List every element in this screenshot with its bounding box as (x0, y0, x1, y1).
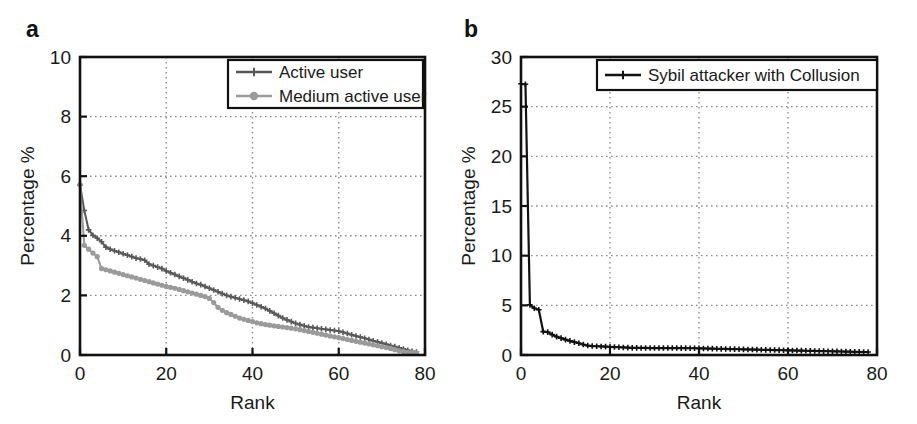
y-tick-label: 0 (501, 345, 512, 366)
panel-b-plot: 051015202530020406080RankPercentage %Syb… (457, 0, 917, 424)
panel-a-plot: 0246810020406080RankPercentage %Active u… (0, 0, 460, 424)
legend-label-0: Active user (279, 63, 363, 82)
data-marker (523, 82, 529, 88)
data-marker (375, 343, 380, 348)
y-tick-label: 5 (501, 295, 512, 316)
data-marker (397, 348, 402, 353)
data-marker (315, 331, 320, 336)
data-marker (95, 254, 100, 259)
data-marker (371, 342, 376, 347)
data-marker (349, 338, 354, 343)
x-axis-title: Rank (677, 392, 722, 413)
series-line-active-user (80, 185, 416, 352)
data-marker (366, 341, 371, 346)
legend-label-0: Sybil attacker with Collusion (648, 66, 860, 85)
data-marker (319, 332, 324, 337)
data-marker (168, 285, 173, 290)
panel-a: a 0246810020406080RankPercentage %Active… (0, 0, 460, 424)
panel-b: b 051015202530020406080RankPercentage %S… (457, 0, 917, 424)
y-tick-label: 15 (491, 196, 512, 217)
data-marker (86, 247, 91, 252)
x-tick-label: 60 (777, 363, 798, 384)
x-tick-label: 80 (866, 363, 887, 384)
y-tick-label: 25 (491, 96, 512, 117)
data-marker (259, 321, 264, 326)
x-tick-label: 20 (156, 363, 177, 384)
data-marker (332, 334, 337, 339)
y-axis-title: Percentage % (17, 146, 38, 265)
legend-label-1: Medium active user (279, 87, 427, 106)
x-tick-label: 20 (599, 363, 620, 384)
data-marker (362, 340, 367, 345)
x-tick-label: 0 (516, 363, 527, 384)
y-tick-label: 8 (60, 106, 71, 127)
data-marker (297, 327, 302, 332)
axis-frame (521, 57, 877, 355)
series-line-medium-active-user (80, 185, 416, 353)
data-marker (323, 332, 328, 337)
data-marker (328, 333, 333, 338)
data-marker (254, 320, 259, 325)
y-tick-label: 2 (60, 285, 71, 306)
y-tick-label: 30 (491, 47, 512, 68)
data-marker (302, 328, 307, 333)
y-tick-label: 10 (491, 245, 512, 266)
data-marker (164, 284, 169, 289)
data-marker (293, 326, 298, 331)
data-marker (384, 345, 389, 350)
data-marker (379, 344, 384, 349)
data-marker (90, 250, 95, 255)
y-tick-label: 6 (60, 166, 71, 187)
data-marker (211, 300, 216, 305)
y-tick-label: 20 (491, 146, 512, 167)
x-tick-label: 60 (328, 363, 349, 384)
x-tick-label: 40 (242, 363, 263, 384)
data-marker (340, 336, 345, 341)
data-marker (345, 337, 350, 342)
x-tick-label: 80 (414, 363, 435, 384)
data-marker (306, 329, 311, 334)
x-tick-label: 40 (688, 363, 709, 384)
y-tick-label: 4 (60, 225, 71, 246)
y-tick-label: 10 (50, 47, 71, 68)
data-marker (353, 339, 358, 344)
y-axis-title: Percentage % (458, 146, 479, 265)
figure-container: a 0246810020406080RankPercentage %Active… (0, 0, 917, 424)
x-tick-label: 0 (75, 363, 86, 384)
data-marker (358, 340, 363, 345)
data-marker (336, 335, 341, 340)
y-tick-label: 0 (60, 345, 71, 366)
data-marker (82, 243, 87, 248)
data-marker (215, 305, 220, 310)
data-marker (310, 330, 315, 335)
legend-marker-circle-icon (250, 92, 258, 100)
x-axis-title: Rank (230, 392, 275, 413)
series-line-sybil-attacker-with-collusion (521, 84, 868, 352)
data-marker (207, 296, 212, 301)
